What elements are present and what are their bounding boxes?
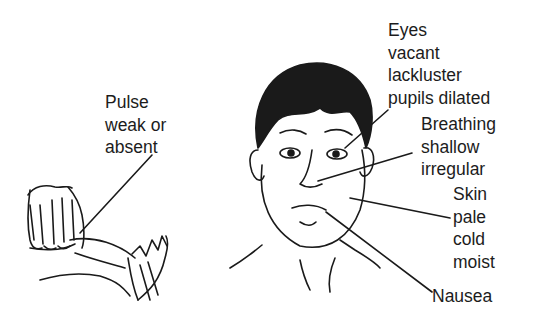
eyes-label-line: Eyes [388, 19, 490, 42]
skin-label: Skin pale cold moist [453, 183, 495, 273]
skin-label-line: pale [453, 206, 495, 229]
hair [256, 63, 372, 148]
breathing-label-line: Breathing [421, 113, 496, 136]
skin-label-line: cold [453, 228, 495, 251]
skin-label-line: Skin [453, 183, 495, 206]
breathing-label: Breathing shallow irregular [421, 113, 496, 181]
hands-illustration [28, 186, 167, 300]
eyes-label: Eyes vacant lackluster pupils dilated [388, 19, 490, 109]
eyes-label-line: lackluster [388, 64, 490, 87]
face-illustration [230, 130, 380, 292]
eyes-label-line: pupils dilated [388, 87, 490, 110]
pulse-label-line: absent [105, 136, 166, 159]
breathing-label-line: irregular [421, 158, 496, 181]
nausea-label: Nausea [432, 285, 492, 308]
pulse-label-line: weak or [105, 114, 166, 137]
pulse-label-line: Pulse [105, 91, 166, 114]
nausea-label-line: Nausea [432, 285, 492, 308]
shock-signs-diagram: Pulse weak or absent Eyes vacant lacklus… [0, 0, 534, 328]
eyes-label-line: vacant [388, 42, 490, 65]
breathing-label-line: shallow [421, 136, 496, 159]
skin-label-line: moist [453, 251, 495, 274]
pulse-label: Pulse weak or absent [105, 91, 166, 159]
